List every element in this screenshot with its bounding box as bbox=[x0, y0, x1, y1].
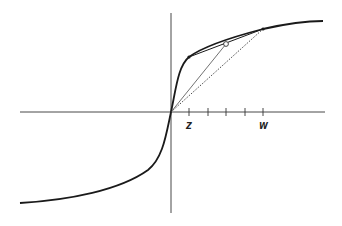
label-z: Z bbox=[185, 122, 192, 131]
origin-to-w-dotted-line bbox=[171, 29, 263, 112]
label-w: W bbox=[259, 122, 269, 131]
w-point bbox=[261, 27, 264, 30]
origin-to-midpoint-line bbox=[171, 44, 226, 112]
mid-point-open-circle bbox=[224, 42, 229, 47]
function-diagram: Z W bbox=[0, 0, 342, 226]
z-point bbox=[187, 55, 190, 58]
